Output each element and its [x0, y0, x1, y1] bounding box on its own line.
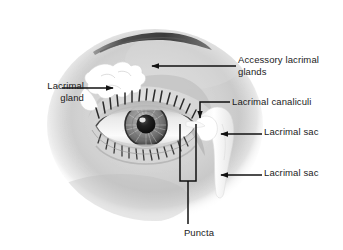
label-accessory-lacrimal-glands: Accessory lacrimal glands: [238, 54, 342, 77]
anatomy-illustration: [0, 0, 343, 250]
label-lacrimal-canaliculi: Lacrimal canaliculi: [232, 96, 342, 108]
label-lacrimal-gland: Lacrimal gland: [6, 80, 84, 103]
label-puncta: Puncta: [172, 227, 226, 239]
label-lacrimal-sac-lower: Lacrimal sac: [264, 167, 342, 179]
lacrimal-apparatus-figure: Lacrimal gland Accessory lacrimal glands…: [0, 0, 343, 250]
pupil-icon: [137, 115, 156, 134]
label-lacrimal-sac-upper: Lacrimal sac: [264, 126, 342, 138]
